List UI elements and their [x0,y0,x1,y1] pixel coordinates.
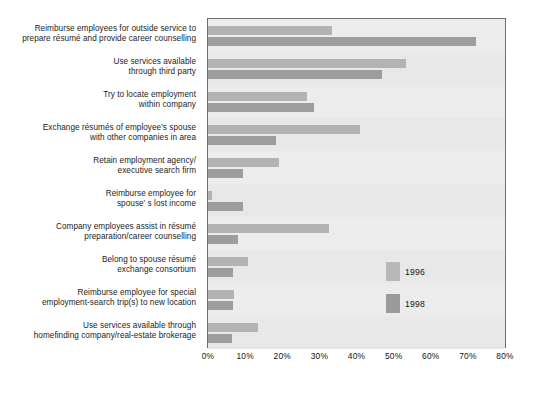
bar-1996-9 [208,323,258,332]
x-tick-label: 80% [496,351,513,361]
category-label-line2: homefinding company/real-estate brokerag… [0,331,196,341]
row-band [208,85,505,118]
bar-1996-7 [208,257,248,266]
bar-1996-0 [208,26,332,35]
bar-1996-1 [208,59,406,68]
x-tick-label: 10% [236,351,253,361]
row-band [208,19,505,52]
category-label: Belong to spouse résuméexchange consorti… [0,255,196,275]
row-band [208,316,505,349]
category-label: Exchange résumés of employee's spousewit… [0,123,196,143]
category-label-line2: preparation/career counselling [0,232,196,242]
row-band [208,184,505,217]
row-band [208,151,505,184]
x-tick-label: 30% [311,351,328,361]
legend-swatch-1996 [386,262,400,281]
category-label: Try to locate employmentwithin company [0,90,196,110]
bar-1998-3 [208,136,276,145]
legend-item-1996[interactable]: 1996 [386,262,425,281]
bar-1996-5 [208,191,212,200]
row-band [208,283,505,316]
category-label-line2: executive search firm [0,166,196,176]
bar-1996-4 [208,158,279,167]
category-label-line1: Exchange résumés of employee's spouse [43,123,196,132]
bar-1998-5 [208,202,243,211]
category-label-line1: Reimburse employee for [106,189,196,198]
bar-1998-1 [208,70,382,79]
category-label: Reimburse employee for specialemployment… [0,288,196,308]
bar-1996-6 [208,224,329,233]
category-label-line1: Reimburse employees for outside service … [35,24,196,33]
x-tick-label: 40% [348,351,365,361]
x-tick-label: 60% [422,351,439,361]
category-label-line2: with other companies in area [0,133,196,143]
category-label-line2: employment-search trip(s) to new locatio… [0,298,196,308]
bar-1998-9 [208,334,232,343]
category-label: Use services available throughhomefindin… [0,321,196,341]
row-band [208,250,505,283]
category-label-line2: prepare résumé and provide career counse… [0,34,196,44]
category-label-line1: Company employees assist in résumé [56,222,196,231]
bar-1996-3 [208,125,360,134]
category-label-line1: Use services available through [83,321,196,330]
x-tick-label: 0% [202,351,215,361]
legend-label: 1996 [405,267,425,277]
category-label-line1: Retain employment agency/ [93,156,196,165]
bar-1998-2 [208,103,314,112]
category-label-line2: spouse' s lost income [0,199,196,209]
x-tick-label: 20% [274,351,291,361]
plot-area: 19961998 [207,18,506,348]
bar-1998-0 [208,37,476,46]
row-band [208,217,505,250]
bar-1998-4 [208,169,243,178]
row-band [208,52,505,85]
chart-legend: 19961998 [386,262,456,322]
bar-1996-8 [208,290,234,299]
legend-label: 1998 [405,299,425,309]
bar-1996-2 [208,92,307,101]
row-band [208,118,505,151]
bar-chart: Reimburse employees for outside service … [0,0,537,400]
category-label-line2: exchange consortium [0,265,196,275]
category-label-line1: Belong to spouse résumé [102,255,196,264]
category-label: Company employees assist in résuméprepar… [0,222,196,242]
x-tick-label: 70% [459,351,476,361]
category-label: Reimburse employees for outside service … [0,24,196,44]
category-label: Reimburse employee forspouse' s lost inc… [0,189,196,209]
bar-1998-6 [208,235,238,244]
x-axis: 0%10%20%30%40%50%60%70%80% [207,351,506,367]
category-label-line1: Reimburse employee for special [78,288,196,297]
category-label: Use services availablethrough third part… [0,57,196,77]
category-labels: Reimburse employees for outside service … [0,18,200,348]
category-label-line1: Try to locate employment [103,90,196,99]
legend-swatch-1998 [386,294,400,313]
category-label-line2: within company [0,100,196,110]
bar-1998-7 [208,268,233,277]
bar-1998-8 [208,301,233,310]
category-label-line1: Use services available [113,57,196,66]
category-label-line2: through third party [0,67,196,77]
legend-item-1998[interactable]: 1998 [386,294,425,313]
x-tick-label: 50% [385,351,402,361]
category-label: Retain employment agency/executive searc… [0,156,196,176]
